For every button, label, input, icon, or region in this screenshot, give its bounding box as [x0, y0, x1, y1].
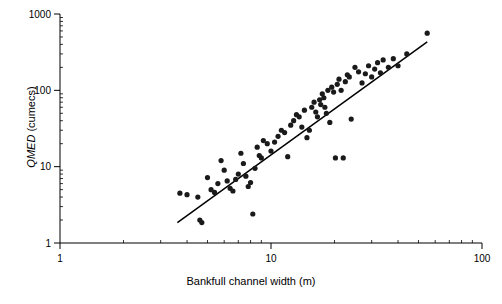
data-point: [230, 188, 235, 193]
data-point: [322, 105, 327, 110]
data-point: [363, 71, 368, 76]
data-point: [241, 161, 246, 166]
data-point: [391, 56, 396, 61]
data-point: [324, 111, 329, 116]
y-tick-label: 1000: [29, 9, 52, 20]
data-point: [291, 118, 296, 123]
y-tick-label: 1: [45, 238, 51, 249]
data-point: [248, 180, 253, 185]
data-point: [378, 70, 383, 75]
data-point: [285, 154, 290, 159]
y-axis-label-variable: QMED: [25, 135, 37, 168]
data-point: [272, 139, 277, 144]
y-tick-label: 10: [40, 161, 52, 172]
data-point: [243, 174, 248, 179]
data-point: [329, 85, 334, 90]
data-point: [297, 114, 302, 119]
data-point: [313, 109, 318, 114]
data-point: [349, 116, 354, 121]
data-point: [375, 60, 380, 65]
data-point: [205, 175, 210, 180]
x-tick-label: 1: [57, 253, 63, 264]
data-point: [252, 166, 257, 171]
data-point: [311, 100, 316, 105]
data-point: [199, 220, 204, 225]
data-point: [299, 124, 304, 129]
data-point: [225, 178, 230, 183]
data-point: [250, 211, 255, 216]
scatter-chart: 1101001101001000 Bankfull channel width …: [0, 0, 502, 304]
data-point: [222, 168, 227, 173]
y-axis-label: QMED (cumecs): [21, 57, 39, 197]
data-point: [404, 51, 409, 56]
data-point: [302, 108, 307, 113]
data-point: [343, 79, 348, 84]
data-point: [282, 130, 287, 135]
data-point: [369, 74, 374, 79]
data-point: [212, 190, 217, 195]
data-point: [425, 31, 430, 36]
x-tick-label: 100: [474, 253, 491, 264]
data-point: [327, 120, 332, 125]
data-point: [255, 145, 260, 150]
data-point: [395, 63, 400, 68]
data-point: [288, 123, 293, 128]
data-point: [236, 171, 241, 176]
data-point: [336, 77, 341, 82]
data-point: [386, 65, 391, 70]
data-point: [359, 80, 364, 85]
data-point: [381, 57, 386, 62]
data-point: [275, 134, 280, 139]
data-point: [333, 155, 338, 160]
data-point: [259, 155, 264, 160]
data-point: [331, 89, 336, 94]
data-point: [195, 194, 200, 199]
data-point: [307, 128, 312, 133]
data-point: [184, 192, 189, 197]
data-point: [339, 88, 344, 93]
data-point: [215, 181, 220, 186]
y-axis-label-units: (cumecs): [25, 86, 37, 134]
data-point: [356, 69, 361, 74]
data-point: [372, 66, 377, 71]
data-point: [268, 148, 273, 153]
plot-area: 1101001101001000: [0, 0, 502, 304]
data-point: [218, 158, 223, 163]
data-point: [321, 95, 326, 100]
data-point: [265, 141, 270, 146]
data-point: [335, 82, 340, 87]
data-point: [366, 63, 371, 68]
data-point: [304, 135, 309, 140]
x-tick-label: 10: [265, 253, 277, 264]
data-point: [341, 155, 346, 160]
data-point: [309, 105, 314, 110]
data-point: [233, 177, 238, 182]
data-point: [238, 151, 243, 156]
data-point: [352, 65, 357, 70]
data-point: [315, 114, 320, 119]
data-point: [177, 191, 182, 196]
x-axis-label: Bankfull channel width (m): [0, 275, 502, 287]
data-point: [347, 74, 352, 79]
